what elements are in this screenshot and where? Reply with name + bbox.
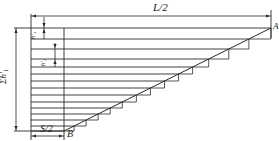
h2-arrow-top (53, 44, 56, 48)
l-half-arrow-left (32, 14, 36, 17)
label-l-half: L/2 (153, 2, 168, 13)
label-s-half: S/2 (40, 124, 53, 134)
diagonal-a-b (64, 28, 271, 131)
label-point-b: B (67, 129, 73, 139)
h1-arrow-bottom (42, 29, 45, 33)
label-h1: h'₁ (30, 32, 37, 39)
s-half-arrow-right (59, 134, 63, 137)
label-sum-h: Σh'₁ (0, 69, 8, 84)
stair-diagram: L/2 A B S/2 Σh'₁ h'₁ h'₂ (0, 0, 279, 141)
h2-arrow-bottom (53, 60, 56, 64)
sum-h-arrow-bottom (14, 126, 17, 130)
label-point-a: A (273, 22, 279, 31)
sum-h-arrow-top (14, 29, 17, 33)
s-half-arrow-left (32, 134, 36, 137)
label-h2: h'₂ (40, 59, 47, 66)
diagram-drawing (0, 0, 279, 141)
l-half-arrow-right (266, 14, 270, 17)
h1-arrow-top (42, 23, 45, 27)
